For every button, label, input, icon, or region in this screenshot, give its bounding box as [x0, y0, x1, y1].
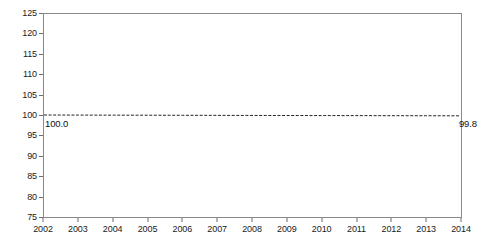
- x-tick-mark: [321, 218, 322, 222]
- x-tick-label: 2013: [416, 224, 436, 234]
- x-axis: 2002200320042005200620072008200920102011…: [43, 218, 463, 250]
- x-tick: 2014: [461, 218, 462, 222]
- x-tick-label: 2002: [33, 224, 53, 234]
- x-tick-mark: [217, 218, 218, 222]
- x-tick: 2002: [43, 218, 44, 222]
- x-tick-label: 2006: [173, 224, 193, 234]
- x-tick-label: 2010: [312, 224, 332, 234]
- y-tick-label: 90: [27, 152, 39, 161]
- x-tick-mark: [147, 218, 148, 222]
- end-value-label: 99.8: [459, 119, 477, 129]
- y-tick-label: 100: [22, 111, 39, 120]
- x-tick-label: 2004: [103, 224, 123, 234]
- x-tick: 2006: [182, 218, 183, 222]
- x-tick-label: 2012: [382, 224, 402, 234]
- y-tick-label: 115: [23, 50, 39, 59]
- x-tick-mark: [391, 218, 392, 222]
- x-tick-mark: [77, 218, 78, 222]
- y-tick-label: 75: [27, 213, 39, 222]
- x-tick-label: 2009: [277, 224, 297, 234]
- x-tick-mark: [182, 218, 183, 222]
- x-tick-label: 2011: [347, 224, 366, 234]
- x-tick: 2012: [391, 218, 392, 222]
- x-tick: 2003: [77, 218, 78, 222]
- x-tick-mark: [426, 218, 427, 222]
- plot-area: [43, 13, 462, 218]
- series-line-index: [44, 115, 460, 116]
- x-tick-mark: [252, 218, 253, 222]
- x-tick-label: 2005: [138, 224, 158, 234]
- y-axis: 1251201151101051009590858075: [0, 13, 43, 219]
- y-tick-label: 105: [22, 91, 39, 100]
- y-tick-label: 85: [27, 172, 39, 181]
- x-tick-label: 2003: [68, 224, 88, 234]
- y-tick-label: 120: [22, 29, 39, 38]
- series-layer: [44, 14, 461, 217]
- x-tick: 2007: [217, 218, 218, 222]
- x-tick: 2010: [321, 218, 322, 222]
- y-tick-label: 110: [23, 70, 39, 79]
- x-tick-label: 2014: [451, 224, 471, 234]
- y-tick-label: 95: [27, 131, 39, 140]
- x-tick-label: 2007: [207, 224, 227, 234]
- x-tick-mark: [461, 218, 462, 222]
- y-tick-label: 80: [27, 193, 39, 202]
- x-tick-mark: [356, 218, 357, 222]
- x-tick: 2013: [426, 218, 427, 222]
- line-chart: 1251201151101051009590858075 100.0 99.8 …: [0, 0, 479, 250]
- x-tick-label: 2008: [242, 224, 262, 234]
- x-tick: 2004: [112, 218, 113, 222]
- x-tick-mark: [112, 218, 113, 222]
- x-tick: 2011: [356, 218, 357, 222]
- x-tick: 2008: [252, 218, 253, 222]
- x-tick: 2009: [286, 218, 287, 222]
- x-tick-mark: [286, 218, 287, 222]
- start-value-label: 100.0: [45, 119, 68, 129]
- x-tick: 2005: [147, 218, 148, 222]
- y-tick-label: 125: [22, 9, 39, 18]
- x-tick-mark: [43, 218, 44, 222]
